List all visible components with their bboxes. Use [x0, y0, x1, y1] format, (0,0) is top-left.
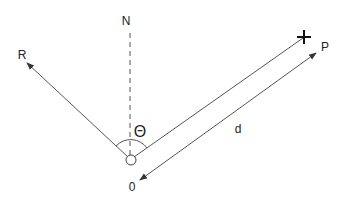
- distance-label: d: [235, 122, 242, 136]
- bearing-diagram: N R P Θ d 0: [0, 0, 341, 200]
- origin-circle: [126, 155, 136, 165]
- point-label: P: [321, 40, 329, 54]
- distance-arrow: [140, 53, 316, 180]
- reference-label: R: [18, 48, 27, 62]
- plus-marker-icon: [297, 30, 311, 44]
- north-label: N: [122, 14, 131, 28]
- angle-label: Θ: [134, 123, 146, 140]
- target-line: [134, 38, 303, 157]
- origin-label: 0: [129, 180, 136, 194]
- angle-arc: [116, 140, 147, 148]
- reference-arrow: [27, 63, 128, 157]
